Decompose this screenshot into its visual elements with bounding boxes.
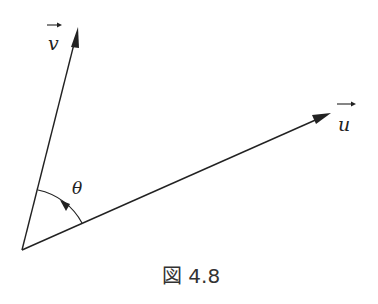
overarrow-v-icon — [57, 23, 62, 28]
label-u: u — [337, 102, 356, 136]
label-v: v — [47, 23, 62, 55]
vector-v-arrowhead-icon — [71, 27, 79, 48]
svg-text:v: v — [48, 32, 59, 54]
vector-u — [22, 113, 331, 250]
figure-caption: 図 4.8 — [162, 264, 220, 288]
vector-angle-diagram: v u θ 図 4.8 — [0, 0, 378, 304]
label-theta: θ — [72, 178, 82, 198]
overarrow-u-icon — [351, 102, 356, 107]
angle-arc-arrowhead-icon — [60, 200, 70, 211]
svg-text:u: u — [338, 113, 350, 135]
vector-u-arrowhead-icon — [312, 113, 331, 124]
vector-v — [22, 27, 79, 250]
